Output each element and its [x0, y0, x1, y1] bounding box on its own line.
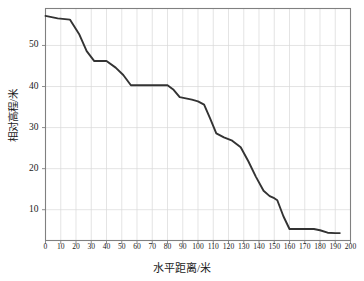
chart-plot-area	[0, 0, 364, 281]
data-series-line	[46, 16, 340, 233]
gridlines-group	[46, 9, 351, 241]
y-axis-title: 相对高程/米	[5, 70, 20, 162]
tick-marks-group	[42, 45, 351, 244]
x-axis-tick-label: 200	[340, 243, 362, 251]
x-axis-title: 水平距离/米	[0, 259, 364, 275]
y-axis-tick-label: 20	[13, 164, 39, 174]
y-axis-tick-label: 10	[13, 205, 39, 215]
y-axis-tick-label: 50	[13, 40, 39, 50]
chart-container: 1020304050 01020304050607080901001101201…	[0, 0, 364, 281]
